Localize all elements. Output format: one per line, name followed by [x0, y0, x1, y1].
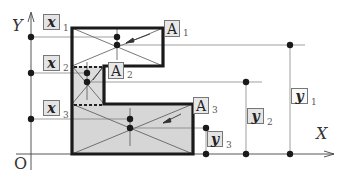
y2-subscript: 2	[267, 117, 273, 127]
y-axis-label: Y	[12, 16, 23, 35]
area-A3-subscript: 3	[212, 105, 218, 115]
y1-subscript: 1	[311, 97, 317, 107]
x1-label-box: x	[43, 14, 60, 30]
area-A3-label-box: A	[193, 97, 209, 114]
x3-label-box: x	[43, 100, 60, 116]
area-A1-subscript: 1	[183, 28, 189, 38]
x2-label-box: x	[43, 55, 60, 71]
y2-label-box: y	[247, 108, 264, 124]
y3-subscript: 3	[226, 140, 232, 150]
x3-subscript: 3	[63, 110, 69, 120]
x1-subscript: 1	[63, 23, 69, 33]
y1-label-box: y	[291, 88, 308, 104]
y3-label-box: y	[207, 131, 223, 147]
area-A2-label-box: A	[108, 62, 124, 79]
x2-subscript: 2	[63, 63, 69, 73]
x-axis-label: X	[316, 124, 327, 143]
origin-label: O	[14, 154, 27, 173]
area-A2-subscript: 2	[127, 70, 133, 80]
area-A1-label-box: A	[164, 20, 180, 37]
